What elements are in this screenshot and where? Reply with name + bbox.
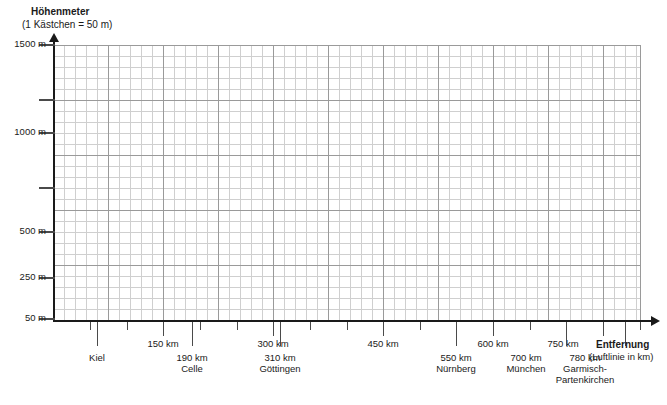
x-tick-800 [640,322,641,330]
x-city-label-kiel: Kiel [57,352,137,363]
x-city-label-goettingen: 310 km Göttingen [220,352,340,374]
x-tick-label-450: 450 km [343,338,423,349]
x-tick-label-600: 600 km [453,338,533,349]
x-city-tick-goettingen [280,322,281,346]
y-axis-arrowhead-icon [49,33,59,42]
x-tick-label-750: 750 km [523,338,603,349]
x-axis-line [53,320,653,322]
chart-canvas: Höhenmeter (1 Kästchen = 50 m) 1500 m 10… [0,0,667,405]
y-axis-line [53,41,55,322]
y-tick-label-1500: 1500 m [0,39,46,49]
x-tick-350 [310,322,311,330]
x-city-name-kiel: Kiel [57,352,137,363]
x-city-tick-celle [192,322,193,346]
x-tick-300 [273,322,274,336]
y-tick-unlabeled-a [39,99,55,101]
x-city-tick-kiel [97,322,98,346]
x-tick-400 [347,322,348,330]
y-tick-label-1000: 1000 m [0,127,46,137]
x-tick-750 [603,322,604,336]
x-axis-subtitle: (Luftlinie in km) [589,351,653,363]
y-axis-subtitle: (1 Kästchen = 50 m) [22,19,112,31]
x-tick-600 [493,322,494,336]
y-tick-label-250: 250 m [0,272,46,282]
y-tick-label-500: 500 m [0,226,46,236]
x-city-name-garmisch: Garmisch-Partenkirchen [540,363,630,385]
grid-right-edge [640,45,641,321]
x-city-tick-nuernberg [456,322,457,346]
y-tick-label-50: 50 m [0,313,46,323]
x-tick-50 [90,322,91,330]
x-tick-100 [127,322,128,330]
plot-grid [53,45,641,320]
x-tick-250 [237,322,238,330]
x-tick-label-300: 300 km [233,338,313,349]
x-tick-500 [420,322,421,330]
x-axis-title: Entfernung [596,339,649,351]
x-tick-label-150: 150 km [123,338,203,349]
x-tick-150 [163,322,164,336]
x-city-tick-muenchen [566,322,567,346]
x-city-distance-goettingen: 310 km [220,352,340,363]
y-tick-unlabeled-b [39,187,55,189]
x-axis-arrowhead-icon [651,316,660,326]
x-tick-200 [200,322,201,330]
x-tick-450 [383,322,384,336]
y-axis-title: Höhenmeter [31,6,89,18]
x-city-name-goettingen: Göttingen [220,363,340,374]
x-tick-650 [530,322,531,330]
